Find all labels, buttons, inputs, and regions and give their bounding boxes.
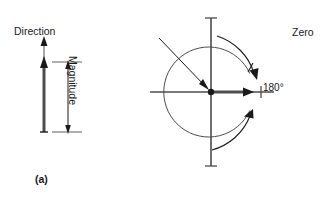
direction-arrowhead xyxy=(41,36,48,46)
figure-root: Direction Magnitude (a) xyxy=(0,0,331,202)
direction-label: Direction xyxy=(14,26,55,37)
panel-a-vector-diagram: Direction Magnitude (a) xyxy=(0,0,160,202)
zero-label: Zero xyxy=(292,27,314,38)
magnitude-label: Magnitude xyxy=(68,56,79,105)
rotation-arrowhead-lower xyxy=(244,109,254,119)
panel-b-polar-diagram: Zero 90° 270° 180° 0° (360°) (b) xyxy=(150,0,331,202)
caption-a: (a) xyxy=(35,173,48,185)
vector-arrowhead xyxy=(40,56,48,68)
magnitude-arrowhead-bottom xyxy=(65,125,71,134)
angle-label-180: 180° xyxy=(263,83,284,93)
rotation-arc-lower xyxy=(212,116,250,150)
rotation-arc-upper xyxy=(217,36,254,73)
rotation-arrowhead-upper xyxy=(250,68,259,80)
reference-vector-arrowhead xyxy=(243,88,254,97)
